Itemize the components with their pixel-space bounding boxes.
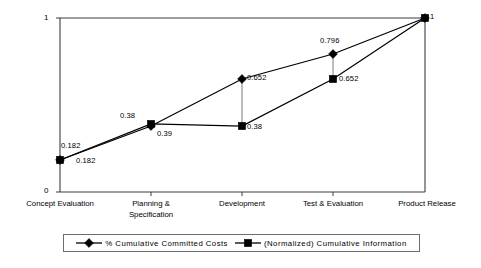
- square-marker-icon: [235, 238, 261, 248]
- legend-label-cumulative-information: (Normalized) Cumulative Information: [264, 239, 407, 248]
- data-point-marker-information-2: [238, 122, 245, 129]
- chart-legend: % Cumulative Committed Costs (Normalized…: [63, 234, 420, 252]
- legend-item-cumulative-information: (Normalized) Cumulative Information: [235, 238, 407, 248]
- diamond-marker-icon: [76, 238, 102, 248]
- legend-label-committed-costs: % Cumulative Committed Costs: [105, 239, 228, 248]
- data-label-information-1: 0.39: [157, 129, 172, 138]
- y-axis-label-bottom: 0: [44, 186, 48, 195]
- data-point-marker-costs-2: [238, 75, 247, 84]
- data-label-information-3: 0.652: [339, 74, 359, 83]
- data-label-costs-3: 0.796: [320, 36, 340, 45]
- data-point-marker-information-3: [329, 75, 336, 82]
- x-axis-category-label-1: Planning & Specification: [106, 199, 196, 220]
- x-axis-category-label-2: Development: [199, 199, 285, 210]
- data-point-marker-information-1: [147, 120, 154, 127]
- data-point-marker-costs-3: [329, 50, 338, 59]
- chart-container: 1 0 0.182 0.182 0.38 0.39 0.652 0.38 0.7…: [0, 0, 481, 268]
- data-label-information-2: 0.38: [247, 122, 262, 131]
- data-point-marker-information-4: [421, 14, 428, 21]
- legend-item-committed-costs: % Cumulative Committed Costs: [76, 238, 228, 248]
- data-point-marker-information-0: [56, 156, 63, 163]
- data-label-product-release: 1: [430, 12, 434, 21]
- x-axis-category-label-3: Test & Evaluation: [285, 199, 381, 210]
- x-axis-category-label-0: Concept Evaluation: [6, 199, 114, 210]
- chart-plot-area: [0, 0, 481, 268]
- data-label-costs-0: 0.182: [61, 141, 81, 150]
- data-label-information-0: 0.182: [76, 156, 96, 165]
- x-axis-category-label-4: Product Release: [379, 199, 475, 210]
- data-label-costs-2: 0.652: [247, 73, 267, 82]
- data-label-costs-1: 0.38: [120, 111, 135, 120]
- y-axis-label-top: 1: [44, 13, 48, 22]
